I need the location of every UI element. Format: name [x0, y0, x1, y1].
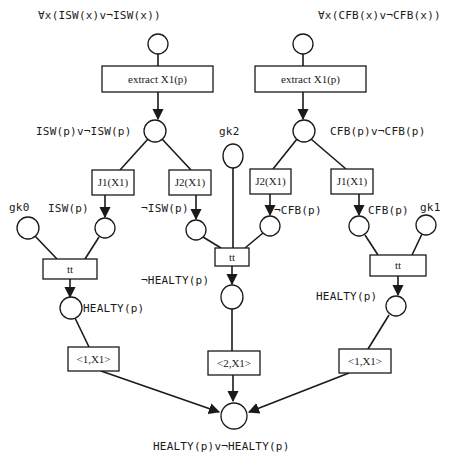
transition-label: J2(X1)	[175, 176, 206, 189]
place-gk1[interactable]	[416, 215, 436, 235]
arc	[162, 139, 191, 170]
label-healty-right: HEALTY(p)	[316, 290, 377, 303]
transition-label: J1(X1)	[337, 175, 368, 188]
label-isw-or: ISW(p)v¬ISW(p)	[36, 125, 132, 138]
place-healty-left[interactable]	[60, 297, 82, 319]
label-not-cfb: ¬CFB(p)	[274, 204, 322, 217]
arc	[245, 233, 263, 248]
place-top-right[interactable]	[293, 34, 313, 54]
transition-label: <1,X1>	[76, 353, 110, 365]
label-cfb-or: CFB(p)v¬CFB(p)	[330, 125, 426, 138]
label-top-right: ∀x(CFB(x)v¬CFB(x))	[318, 9, 441, 22]
label-final: HEALTY(p)v¬HEALTY(p)	[153, 440, 289, 453]
place-labels: ∀x(ISW(x)v¬ISW(x)) ∀x(CFB(x)v¬CFB(x)) IS…	[9, 9, 441, 453]
arc	[365, 235, 378, 255]
place-gk2[interactable]	[223, 144, 243, 168]
petri-net-diagram: extract X1(p) extract X1(p) J1(X1) J2(X1…	[0, 0, 451, 455]
label-top-left: ∀x(ISW(x)v¬ISW(x))	[38, 9, 161, 22]
arc	[203, 237, 221, 248]
place-not-cfb[interactable]	[260, 216, 280, 236]
label-isw: ISW(p)	[48, 202, 89, 215]
transition-label: J1(X1)	[98, 176, 129, 189]
transition-label: <1,X1>	[348, 355, 382, 367]
label-gk2: gk2	[219, 125, 239, 138]
place-healty-right[interactable]	[386, 296, 406, 316]
place-isw-or[interactable]	[144, 120, 166, 142]
arc	[120, 139, 148, 170]
transition-label: tt	[229, 251, 235, 263]
place-not-isw[interactable]	[186, 220, 206, 240]
transition-label: extract X1(p)	[281, 73, 340, 86]
arc	[368, 315, 389, 349]
place-final[interactable]	[221, 403, 247, 429]
label-gk0: gk0	[9, 201, 29, 214]
arc	[85, 237, 99, 259]
label-cfb: CFB(p)	[368, 204, 409, 217]
arc	[311, 139, 346, 169]
transition-label: tt	[67, 263, 73, 275]
label-gk1: gk1	[420, 201, 440, 214]
arc	[101, 371, 219, 412]
label-healty-left: HEALTY(p)	[83, 302, 144, 315]
transition-label: J2(X1)	[255, 175, 286, 188]
transition-label: <2,X1>	[217, 357, 251, 369]
place-cfb[interactable]	[349, 216, 369, 236]
label-not-healty: ¬HEALTY(p)	[141, 274, 209, 287]
label-not-isw: ¬ISW(p)	[141, 202, 189, 215]
place-gk0[interactable]	[17, 217, 39, 239]
place-isw[interactable]	[95, 218, 115, 238]
arc	[35, 236, 57, 259]
transition-label: tt	[395, 259, 401, 271]
arc	[249, 373, 349, 412]
place-top-left[interactable]	[148, 34, 168, 54]
arc	[273, 139, 297, 169]
place-cfb-or[interactable]	[293, 120, 315, 142]
place-not-healty[interactable]	[221, 285, 243, 309]
transition-label: extract X1(p)	[128, 73, 187, 86]
arc	[75, 318, 89, 347]
arc	[412, 234, 422, 255]
